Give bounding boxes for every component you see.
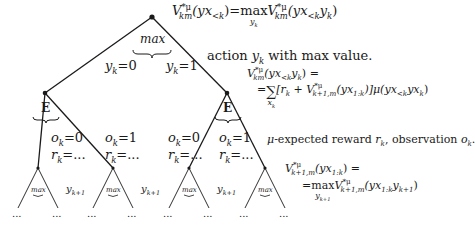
action-edge-label-0: yk=0 [105, 59, 137, 72]
chance-formula-line2: =∑xk[rk + V*μk+1,m(yx1:k)]μ(yx<kyxk) [257, 84, 428, 107]
ellipsis-4: ... [127, 209, 137, 219]
chance-node-1-operator: E [41, 102, 50, 114]
leaf-edge-label-3: yk+1 [217, 184, 236, 194]
ellipsis-3: ... [87, 209, 97, 219]
obs-edge-label-3: ok=0 rk=... [168, 131, 203, 161]
e-brace-icon-1 [33, 117, 59, 123]
leaf-edge-label-1: yk+1 [66, 184, 85, 194]
ellipsis-5: ... [163, 209, 173, 219]
root-max-label: max [140, 33, 165, 45]
leaf-max-3: max [182, 187, 197, 194]
leaf-node-2 [111, 166, 114, 169]
chance-annotation: μ-expected reward rk, observation ok. [267, 134, 475, 145]
root-node [149, 14, 154, 19]
leaf-node-1 [36, 166, 39, 169]
ellipsis-6: ... [203, 209, 213, 219]
leaf-edge-label-2: yk+1 [141, 184, 160, 194]
obs-edge-label-1: ok=0 rk=... [51, 131, 86, 161]
ellipsis-1: ... [12, 209, 22, 219]
root-formula: V*μkm(yx<k)=maxykV*μkm(yx<kyk) [172, 4, 337, 26]
e-brace-icon-2 [215, 117, 241, 123]
chance-node-2 [225, 91, 230, 96]
obs-edge-label-2: ok=1 rk=... [105, 131, 140, 161]
leaf-node-4 [263, 166, 266, 169]
root-annotation: action yk with max value. [207, 49, 372, 62]
chance-formula-line1: V*μkm(yx<kyk) = [247, 68, 319, 79]
action-edge-label-1: yk=1 [166, 59, 198, 72]
ellipsis-8: ... [279, 209, 289, 219]
leaf-max-2: max [106, 187, 121, 194]
edge-root-left [45, 17, 152, 93]
leaf-formula-line1: V*μk+1,m(yx1:k) = [285, 163, 360, 174]
obs-edge-label-4: ok=1 rk=... [219, 131, 254, 161]
leaf-max-1: max [31, 187, 46, 194]
leaf-max-4: max [258, 187, 273, 194]
chance-node-1 [43, 91, 48, 96]
ellipsis-2: ... [52, 209, 62, 219]
ellipsis-7: ... [239, 209, 249, 219]
leaf-formula-line2: =maxyk+1V*μk+1,m(yx1:kyk+1) [302, 180, 418, 200]
chance-node-2-operator: E [223, 102, 232, 114]
max-brace-icon [133, 50, 171, 58]
leaf-node-3 [187, 166, 190, 169]
